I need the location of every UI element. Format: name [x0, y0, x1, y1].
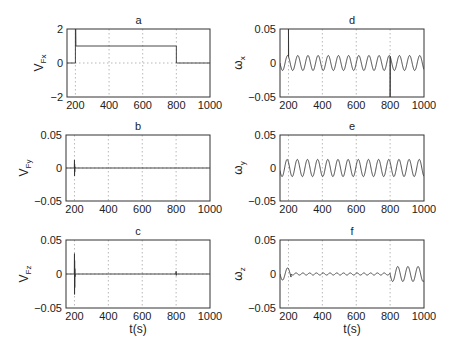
- y-axis-label: VFz: [17, 266, 33, 283]
- x-tick-label: 200: [279, 203, 297, 215]
- x-tick-label: 600: [134, 99, 152, 111]
- y-tick-label: 0: [56, 268, 62, 280]
- series-line-omega_z: [280, 267, 424, 282]
- y-label-sub: y: [238, 161, 247, 165]
- x-tick-label: 800: [381, 99, 399, 111]
- x-tick-label: 600: [347, 203, 365, 215]
- x-tick-label: 800: [167, 310, 185, 322]
- y-axis-label: ωy: [231, 161, 247, 174]
- figure: 2004006008001000−202aVFx 200400600800100…: [0, 0, 449, 349]
- x-tick-label: 400: [313, 99, 331, 111]
- subplot-title: d: [349, 14, 355, 26]
- x-axis-label: t(s): [129, 322, 146, 336]
- series-line-V_Fy: [66, 160, 210, 176]
- y-axis-label: ωx: [231, 56, 247, 69]
- x-axis-label: t(s): [343, 322, 360, 336]
- y-tick-label: −0.05: [248, 302, 276, 314]
- series-line-omega_x: [280, 29, 424, 97]
- subplot-e: 2004006008001000−0.0500.05eωy: [231, 120, 436, 215]
- x-tick-label: 1000: [412, 310, 436, 322]
- subplot-title: c: [135, 225, 141, 237]
- subplot-title: e: [349, 120, 355, 132]
- y-tick-label: −0.05: [34, 302, 62, 314]
- y-label-main: V: [17, 168, 31, 176]
- x-tick-label: 800: [381, 310, 399, 322]
- y-label-main: V: [32, 63, 46, 71]
- x-tick-label: 1000: [198, 203, 222, 215]
- subplot-title: f: [350, 225, 354, 237]
- y-tick-label: 2: [57, 23, 63, 35]
- x-tick-label: 1000: [412, 203, 436, 215]
- y-label-sub: Fy: [24, 160, 33, 169]
- y-label-main: V: [17, 274, 31, 282]
- y-tick-label: 0: [270, 268, 276, 280]
- y-tick-label: 0: [270, 57, 276, 69]
- y-tick-label: 0.05: [255, 23, 276, 35]
- y-tick-label: 0: [270, 162, 276, 174]
- series-line-omega_y: [280, 159, 424, 176]
- y-tick-label: 0: [56, 162, 62, 174]
- y-axis-label: ωz: [231, 267, 247, 280]
- series-line-V_Fx: [67, 29, 210, 63]
- y-tick-label: 0: [57, 57, 63, 69]
- x-tick-label: 400: [99, 310, 117, 322]
- x-tick-label: 200: [65, 310, 83, 322]
- x-tick-label: 1000: [198, 99, 222, 111]
- subplot-f: 2004006008001000−0.0500.05fωzt(s): [231, 225, 436, 336]
- subplot-c: 2004006008001000−0.0500.05cVFzt(s): [17, 225, 222, 336]
- y-tick-label: 0.05: [255, 234, 276, 246]
- x-tick-label: 800: [167, 99, 185, 111]
- y-label-main: ω: [231, 165, 245, 174]
- y-label-sub: Fx: [39, 55, 48, 64]
- y-tick-label: 0.05: [41, 234, 62, 246]
- axes-box: [280, 135, 424, 201]
- x-tick-label: 200: [65, 203, 83, 215]
- x-tick-label: 200: [279, 310, 297, 322]
- subplot-title: a: [135, 14, 142, 26]
- y-tick-label: 0.05: [255, 129, 276, 141]
- x-tick-label: 600: [347, 99, 365, 111]
- y-axis-label: VFx: [32, 55, 48, 72]
- subplot-d: 2004006008001000−0.0500.05dωx: [231, 14, 436, 111]
- x-tick-label: 400: [99, 203, 117, 215]
- subplot-a: 2004006008001000−202aVFx: [32, 14, 222, 111]
- x-tick-label: 400: [313, 310, 331, 322]
- x-tick-label: 800: [381, 203, 399, 215]
- y-tick-label: −0.05: [248, 195, 276, 207]
- y-axis-label: VFy: [17, 160, 33, 177]
- subplot-title: b: [135, 120, 141, 132]
- x-tick-label: 600: [133, 310, 151, 322]
- y-tick-label: −0.05: [34, 195, 62, 207]
- x-tick-label: 200: [66, 99, 84, 111]
- x-tick-label: 1000: [412, 99, 436, 111]
- y-tick-label: −2: [50, 91, 63, 103]
- x-tick-label: 600: [347, 310, 365, 322]
- x-tick-label: 400: [313, 203, 331, 215]
- y-label-sub: Fz: [24, 266, 33, 275]
- subplot-b: 2004006008001000−0.0500.05bVFy: [17, 120, 222, 215]
- x-tick-label: 600: [133, 203, 151, 215]
- x-tick-label: 1000: [198, 310, 222, 322]
- y-tick-label: −0.05: [248, 91, 276, 103]
- y-label-sub: x: [238, 56, 247, 60]
- y-label-sub: z: [238, 267, 247, 271]
- y-label-main: ω: [231, 271, 245, 280]
- series-line-V_Fz: [66, 254, 210, 295]
- x-tick-label: 800: [167, 203, 185, 215]
- y-label-main: ω: [231, 60, 245, 69]
- y-tick-label: 0.05: [41, 129, 62, 141]
- x-tick-label: 400: [100, 99, 118, 111]
- x-tick-label: 200: [279, 99, 297, 111]
